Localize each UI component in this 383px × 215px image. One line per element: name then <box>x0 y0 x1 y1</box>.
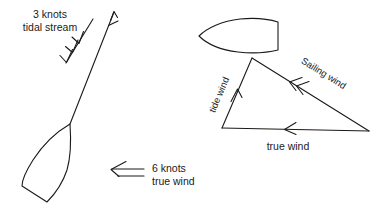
boat-hull-right <box>199 18 278 52</box>
left-scene-boat-tidal-stream: 3 knots tidal stream 6 knots true wind <box>22 8 195 202</box>
tidal-stream-label-line1: 3 knots <box>33 8 67 20</box>
course-arrow-up-right <box>70 12 118 125</box>
sailing-wind-label: Sailing wind <box>299 55 348 91</box>
true-wind-triangle-arrow-head-group <box>285 123 297 135</box>
diagram-canvas: 3 knots tidal stream 6 knots true wind <box>0 0 383 215</box>
true-wind-triangle-arrow-head <box>285 123 297 135</box>
course-arrow-head <box>111 12 118 21</box>
tidal-stream-label-line2: tidal stream <box>23 21 78 33</box>
right-scene-wind-triangle: tide wind Sailing wind true wind <box>199 18 369 152</box>
true-wind-arrow-left <box>111 162 144 177</box>
tide-wind-vector-line <box>222 58 252 128</box>
true-wind-vector-line <box>222 128 369 131</box>
sailing-wind-vector-diagram: 3 knots tidal stream 6 knots true wind <box>0 0 383 215</box>
tide-wind-label: tide wind <box>206 75 231 114</box>
true-wind-label-line2: true wind <box>152 175 195 187</box>
true-wind-label-line1: 6 knots <box>152 162 186 174</box>
boat-hull-left <box>22 124 71 202</box>
wind-vector-triangle <box>222 58 369 131</box>
true-wind-triangle-label: true wind <box>267 140 310 152</box>
